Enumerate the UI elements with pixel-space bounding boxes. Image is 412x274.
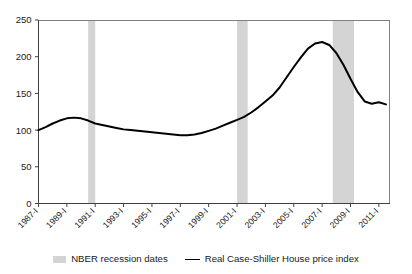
- line-series-swatch-icon: [185, 259, 200, 260]
- recession-band-swatch-icon: [53, 256, 66, 263]
- x-axis: 1987-I1989-I1991-I1993-I1995-I1997-I1999…: [16, 204, 381, 231]
- x-axis-tick-label: 1993-I: [101, 206, 125, 230]
- x-axis-tick-label: 2007-I: [299, 206, 323, 230]
- y-axis-tick-label: 250: [16, 14, 32, 25]
- y-axis: 050100150200250: [16, 14, 39, 209]
- legend-entry-recession: NBER recession dates: [53, 254, 168, 264]
- x-axis-tick-label: 1989-I: [44, 206, 68, 230]
- x-axis-tick-label: 2001-I: [214, 206, 238, 230]
- x-axis-tick-label: 1991-I: [72, 206, 96, 230]
- x-axis-tick-label: 2005-I: [271, 206, 295, 230]
- recession-band: [333, 20, 354, 204]
- legend-label-price-index: Real Case-Shiller House price index: [205, 254, 359, 264]
- y-axis-tick-label: 100: [16, 125, 32, 136]
- x-axis-tick-label: 1995-I: [129, 206, 153, 230]
- chart-plot-area: 050100150200250 1987-I1989-I1991-I1993-I…: [0, 0, 412, 274]
- chart-figure: 050100150200250 1987-I1989-I1991-I1993-I…: [0, 0, 412, 274]
- recession-band: [237, 20, 248, 204]
- y-axis-tick-label: 200: [16, 51, 32, 62]
- recession-bands-group: [88, 20, 354, 204]
- y-axis-tick-label: 150: [16, 88, 32, 99]
- x-axis-tick-label: 2003-I: [243, 206, 267, 230]
- legend-entry-price-index: Real Case-Shiller House price index: [185, 254, 359, 264]
- x-axis-tick-label: 1997-I: [157, 206, 181, 230]
- x-axis-tick-label: 2009-I: [328, 206, 352, 230]
- recession-band: [88, 20, 95, 204]
- legend-label-recession: NBER recession dates: [71, 254, 168, 264]
- x-axis-tick-label: 1987-I: [16, 206, 40, 230]
- chart-legend: NBER recession dates Real Case-Shiller H…: [0, 250, 412, 268]
- x-axis-tick-label: 2011-I: [356, 206, 380, 230]
- x-axis-tick-label: 1999-I: [186, 206, 210, 230]
- y-axis-tick-label: 50: [21, 161, 32, 172]
